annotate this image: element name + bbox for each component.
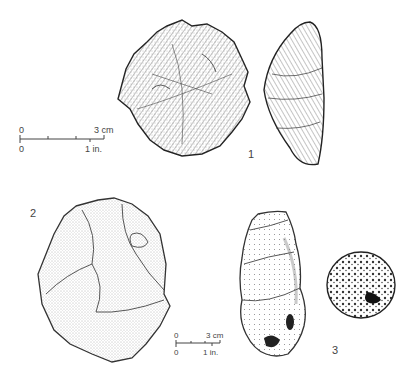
artifact-3-elongated-drawing (228, 208, 314, 358)
artifact-1-label: 1 (248, 148, 254, 160)
scale-bar-2-bottom-right: 1 in. (203, 349, 218, 357)
scale-bar-2-bottom-left: 0 (174, 349, 178, 357)
artifact-1-face-drawing (112, 14, 262, 164)
scale-bar-1: 0 3 cm 0 1 in. (15, 125, 115, 160)
scale-bar-2: 0 3 cm 0 1 in. (170, 330, 230, 365)
artifact-3-sphere-drawing (323, 248, 399, 322)
artifact-3-label: 3 (332, 344, 338, 356)
scale-bar-1-bottom-left: 0 (19, 145, 24, 154)
scale-bar-1-bottom-right: 1 in. (85, 145, 102, 154)
artifact-2-drawing (36, 194, 176, 364)
artifact-1-profile-drawing (260, 18, 332, 170)
